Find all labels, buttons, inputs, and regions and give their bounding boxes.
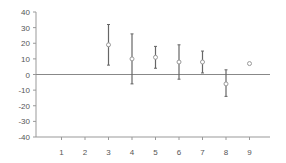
marker (248, 62, 252, 66)
y-tick-label: -30 (18, 117, 30, 126)
marker (130, 57, 134, 61)
marker (107, 43, 111, 47)
y-tick-label: 30 (21, 24, 30, 33)
x-tick-label: 4 (130, 148, 135, 157)
y-tick-label: -20 (18, 102, 30, 111)
y-tick-label: 40 (21, 8, 30, 17)
x-axis: 123456789 (36, 75, 270, 158)
x-tick-label: 7 (200, 148, 205, 157)
x-tick-label: 2 (83, 148, 88, 157)
x-tick-label: 3 (106, 148, 111, 157)
x-tick-label: 5 (153, 148, 158, 157)
marker (177, 60, 181, 64)
y-tick-label: -10 (18, 86, 30, 95)
data-point (248, 62, 252, 66)
x-tick-label: 9 (247, 148, 252, 157)
y-tick-label: 20 (21, 39, 30, 48)
marker (224, 82, 228, 86)
data-point (201, 51, 205, 73)
data-point (154, 46, 158, 68)
y-tick-label: 0 (26, 71, 31, 80)
data-point (224, 70, 228, 97)
marker (201, 60, 205, 64)
error-bar-chart: 403020100-10-20-30-40 123456789 (0, 0, 286, 163)
y-tick-label: 10 (21, 55, 30, 64)
x-tick-label: 6 (177, 148, 182, 157)
y-axis: 403020100-10-20-30-40 (18, 8, 36, 142)
data-point (107, 25, 111, 66)
x-tick-label: 1 (59, 148, 64, 157)
y-tick-label: -40 (18, 133, 30, 142)
plot-area (107, 25, 252, 97)
marker (154, 55, 158, 59)
data-point (130, 34, 134, 84)
x-tick-label: 8 (224, 148, 229, 157)
